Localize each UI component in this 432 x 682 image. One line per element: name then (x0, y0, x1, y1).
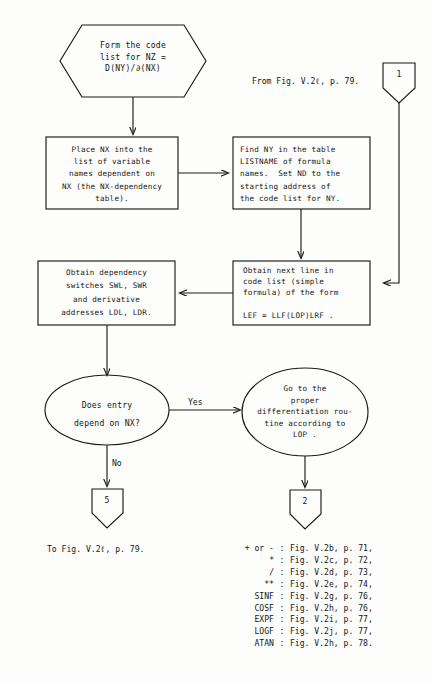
legend-separator: : (274, 555, 290, 567)
connector-2-label: 2 (290, 496, 320, 506)
legend-row: SINF:Fig. V.2g, p. 76, (222, 591, 373, 603)
legend-reference: Fig. V.2c, p. 72, (290, 555, 373, 567)
legend-row: LOGF:Fig. V.2j, p. 77, (222, 626, 373, 638)
legend-separator: : (274, 603, 290, 615)
legend-reference: Fig. V.2i, p. 77, (290, 614, 373, 626)
legend-row: **:Fig. V.2e, p. 74, (222, 579, 373, 591)
legend-separator: : (274, 579, 290, 591)
legend-separator: : (274, 638, 290, 650)
legend-reference: Fig. V.2e, p. 74, (290, 579, 373, 591)
connector-5-label: 5 (92, 495, 122, 505)
caption-to-fig: To Fig. V.2ℓ, p. 79. (47, 544, 144, 554)
legend-row: + or -:Fig. V.2b, p. 71, (222, 543, 373, 555)
legend-reference: Fig. V.2b, p. 71, (290, 543, 373, 555)
legend-operator: * (222, 555, 274, 567)
legend-row: *:Fig. V.2c, p. 72, (222, 555, 373, 567)
legend-row: ATAN:Fig. V.2h, p. 78. (222, 638, 373, 650)
legend-separator: : (274, 614, 290, 626)
legend-separator: : (274, 567, 290, 579)
decision-ellipse-label: Does entry depend on NX? (45, 396, 169, 432)
legend-reference: Fig. V.2h, p. 78. (290, 638, 373, 650)
legend-list: + or -:Fig. V.2b, p. 71,*:Fig. V.2c, p. … (222, 543, 373, 650)
legend-row: COSF:Fig. V.2h, p. 76, (222, 603, 373, 615)
edge-label-no: No (112, 458, 122, 468)
legend-operator: ** (222, 579, 274, 591)
place-nx-box-label: Place NX into the list of variable names… (46, 144, 178, 205)
caption-from-fig: From Fig. V.2ℓ, p. 79. (252, 76, 359, 86)
legend-reference: Fig. V.2j, p. 77, (290, 626, 373, 638)
legend-reference: Fig. V.2h, p. 76, (290, 603, 373, 615)
legend-row: /:Fig. V.2d, p. 73, (222, 567, 373, 579)
obtain-switches-box-label: Obtain dependency switches SWL, SWR and … (38, 266, 175, 320)
legend-operator: / (222, 567, 274, 579)
legend-operator: LOGF (222, 626, 274, 638)
goto-routine-ellipse-label: Go to the proper differentiation rou- ti… (240, 383, 370, 441)
legend-separator: : (274, 543, 290, 555)
flowchart-page: Form the code list for NZ = D(NY)/∂(NX) … (0, 0, 432, 682)
legend-operator: ATAN (222, 638, 274, 650)
legend-operator: EXPF (222, 614, 274, 626)
legend-operator: COSF (222, 603, 274, 615)
connector-1-label: 1 (384, 69, 414, 79)
obtain-next-line-box-label: Obtain next line in code list (simple fo… (234, 265, 369, 321)
legend-operator: + or - (222, 543, 274, 555)
legend-operator: SINF (222, 591, 274, 603)
legend-reference: Fig. V.2g, p. 76, (290, 591, 373, 603)
legend-separator: : (274, 591, 290, 603)
edge-label-yes: Yes (188, 397, 203, 407)
start-hexagon-label: Form the code list for NZ = D(NY)/∂(NX) (61, 40, 205, 75)
legend-separator: : (274, 626, 290, 638)
legend-reference: Fig. V.2d, p. 73, (290, 567, 373, 579)
edge-connector1-to-obtain-next-line (384, 103, 399, 283)
legend-row: EXPF:Fig. V.2i, p. 77, (222, 614, 373, 626)
find-ny-box-label: Find NY in the table LISTNAME of formula… (234, 144, 369, 205)
